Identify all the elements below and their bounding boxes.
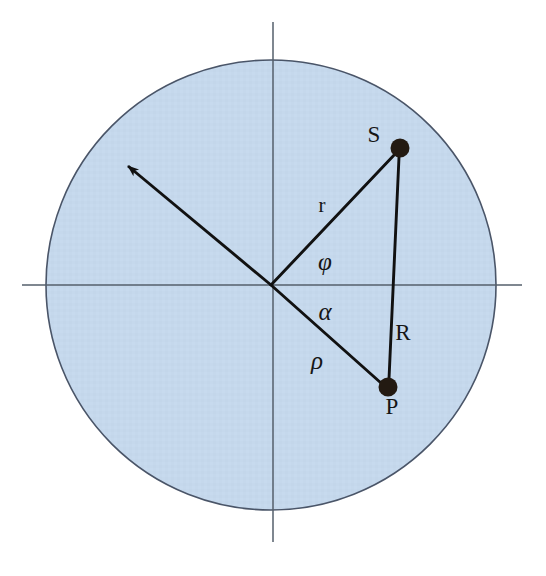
- label-R: R: [395, 320, 411, 345]
- geometry-diagram-canvas: S P r R φ α ρ: [0, 0, 546, 576]
- label-S: S: [368, 122, 381, 147]
- geometry-figure: S P r R φ α ρ: [0, 0, 546, 576]
- label-rho: ρ: [310, 347, 323, 374]
- label-phi: φ: [318, 248, 332, 275]
- label-alpha: α: [318, 298, 332, 325]
- label-P: P: [386, 394, 399, 419]
- label-r: r: [319, 193, 326, 217]
- point-S: [391, 139, 410, 158]
